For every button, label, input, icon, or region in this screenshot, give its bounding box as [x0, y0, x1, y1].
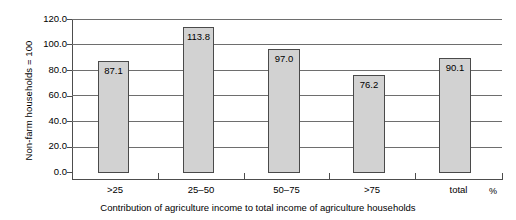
- bar-25-50[interactable]: 113.8: [183, 27, 214, 173]
- x-category-label-gt25: >25: [72, 184, 158, 195]
- bar-50-75[interactable]: 97.0: [268, 49, 300, 173]
- bar-gt25[interactable]: 87.1: [98, 61, 129, 173]
- x-axis-line: [72, 179, 503, 180]
- y-axis-title: Non-farm households = 100: [23, 26, 34, 176]
- x-axis-tick-3: [329, 173, 330, 180]
- y-tick-label-40: 40.0: [33, 116, 67, 126]
- x-axis-tick-2: [244, 173, 245, 180]
- y-tick-label-120: 120.0: [33, 14, 67, 24]
- bar-total[interactable]: 90.1: [439, 58, 471, 173]
- x-axis-unit-label: %: [489, 186, 497, 196]
- x-category-label-gt75: >75: [329, 184, 415, 195]
- gridline-100: [72, 44, 502, 45]
- bar-value-gt25: 87.1: [99, 65, 128, 76]
- plot-area: 87.1 113.8 97.0 76.2 90.1: [72, 19, 502, 172]
- x-axis-title: Contribution of agriculture income to to…: [0, 202, 516, 213]
- bar-value-25-50: 113.8: [184, 31, 213, 42]
- y-tick-label-20: 20.0: [33, 141, 67, 151]
- x-category-label-25-50: 25–50: [158, 184, 244, 195]
- bar-gt75[interactable]: 76.2: [353, 75, 385, 173]
- bar-value-gt75: 76.2: [354, 79, 384, 90]
- y-tick-label-0: 0.0: [33, 167, 67, 177]
- y-tick-label-100: 100.0: [33, 39, 67, 49]
- x-axis-tick-1: [158, 173, 159, 180]
- gridline-120: [72, 19, 502, 20]
- bar-value-total: 90.1: [440, 62, 470, 73]
- x-category-label-50-75: 50–75: [244, 184, 329, 195]
- x-axis-tick-0: [72, 173, 73, 180]
- bar-value-50-75: 97.0: [269, 53, 299, 64]
- x-axis-tick-4: [415, 173, 416, 180]
- bar-chart-figure: Non-farm households = 100 120.0 100.0 80…: [0, 0, 516, 220]
- y-axis-tick-labels: 120.0 100.0 80.0 60.0 40.0 20.0 0.0: [33, 0, 67, 220]
- x-axis-tick-5: [502, 173, 503, 180]
- y-tick-label-60: 60.0: [33, 90, 67, 100]
- y-tick-label-80: 80.0: [33, 65, 67, 75]
